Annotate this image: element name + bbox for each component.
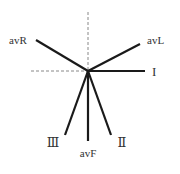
lead-line-iii — [65, 71, 88, 135]
hexaxial-diagram: avRavLIⅢavFⅡ — [0, 0, 180, 174]
lead-line-avl — [88, 44, 140, 71]
lead-label-avf: avF — [80, 147, 97, 159]
lead-label-ii: Ⅱ — [118, 135, 127, 150]
lead-line-avr — [36, 40, 88, 71]
lead-label-avr: avR — [9, 34, 27, 46]
lead-line-ii — [88, 71, 111, 135]
lead-label-avl: avL — [147, 34, 164, 46]
lead-label-iii: Ⅲ — [47, 135, 60, 150]
lead-labels: avRavLIⅢavFⅡ — [9, 34, 164, 159]
lead-label-i: I — [152, 64, 156, 79]
lead-lines — [36, 40, 145, 141]
